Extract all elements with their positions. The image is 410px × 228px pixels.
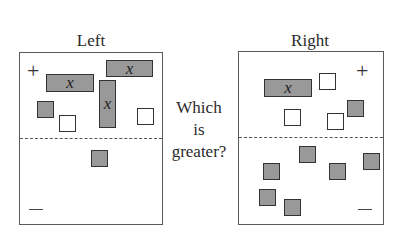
right-title: Right — [270, 31, 350, 51]
right-positive-unit — [284, 109, 301, 126]
left-positive-unit — [137, 108, 154, 125]
left-x-tile-2: x — [106, 60, 153, 77]
x-label: x — [104, 94, 112, 114]
x-label: x — [126, 59, 134, 79]
right-plus-sign: + — [356, 60, 368, 82]
right-negative-unit — [299, 146, 316, 163]
left-negative-unit — [37, 101, 54, 118]
right-negative-unit — [263, 163, 280, 180]
left-panel: + x x x — [19, 52, 163, 225]
left-positive-unit — [59, 115, 76, 132]
left-x-tile-1: x — [46, 74, 94, 92]
left-minus-sign — [29, 209, 43, 210]
right-negative-unit — [363, 153, 380, 170]
right-negative-unit — [347, 100, 364, 117]
question-text: Which is greater? — [168, 97, 230, 163]
right-panel: + x — [238, 51, 384, 225]
right-negative-unit — [329, 163, 346, 180]
right-positive-unit — [319, 73, 336, 90]
x-label: x — [66, 73, 74, 93]
right-minus-sign — [358, 209, 372, 210]
right-negative-unit — [259, 189, 276, 206]
left-divider — [20, 138, 162, 139]
left-negative-unit — [91, 150, 108, 167]
left-title: Left — [51, 31, 131, 51]
left-x-tile-vertical: x — [99, 80, 116, 128]
right-negative-unit — [284, 199, 301, 216]
right-positive-unit — [327, 113, 344, 130]
right-divider — [239, 137, 383, 138]
x-label: x — [284, 78, 292, 98]
right-x-tile: x — [264, 79, 312, 97]
left-plus-sign: + — [27, 60, 39, 82]
